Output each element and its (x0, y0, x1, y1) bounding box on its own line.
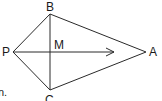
segment-ac (50, 52, 146, 90)
kite-diagram: B P M A C n. (0, 0, 162, 101)
text-fragment: n. (0, 86, 7, 98)
segment-cp (13, 52, 50, 90)
segment-ba (50, 14, 146, 52)
segment-pb (13, 14, 50, 52)
label-b: B (46, 0, 54, 14)
label-p: P (2, 45, 10, 59)
label-m: M (54, 38, 64, 52)
label-c: C (45, 93, 54, 101)
label-a: A (149, 45, 157, 59)
